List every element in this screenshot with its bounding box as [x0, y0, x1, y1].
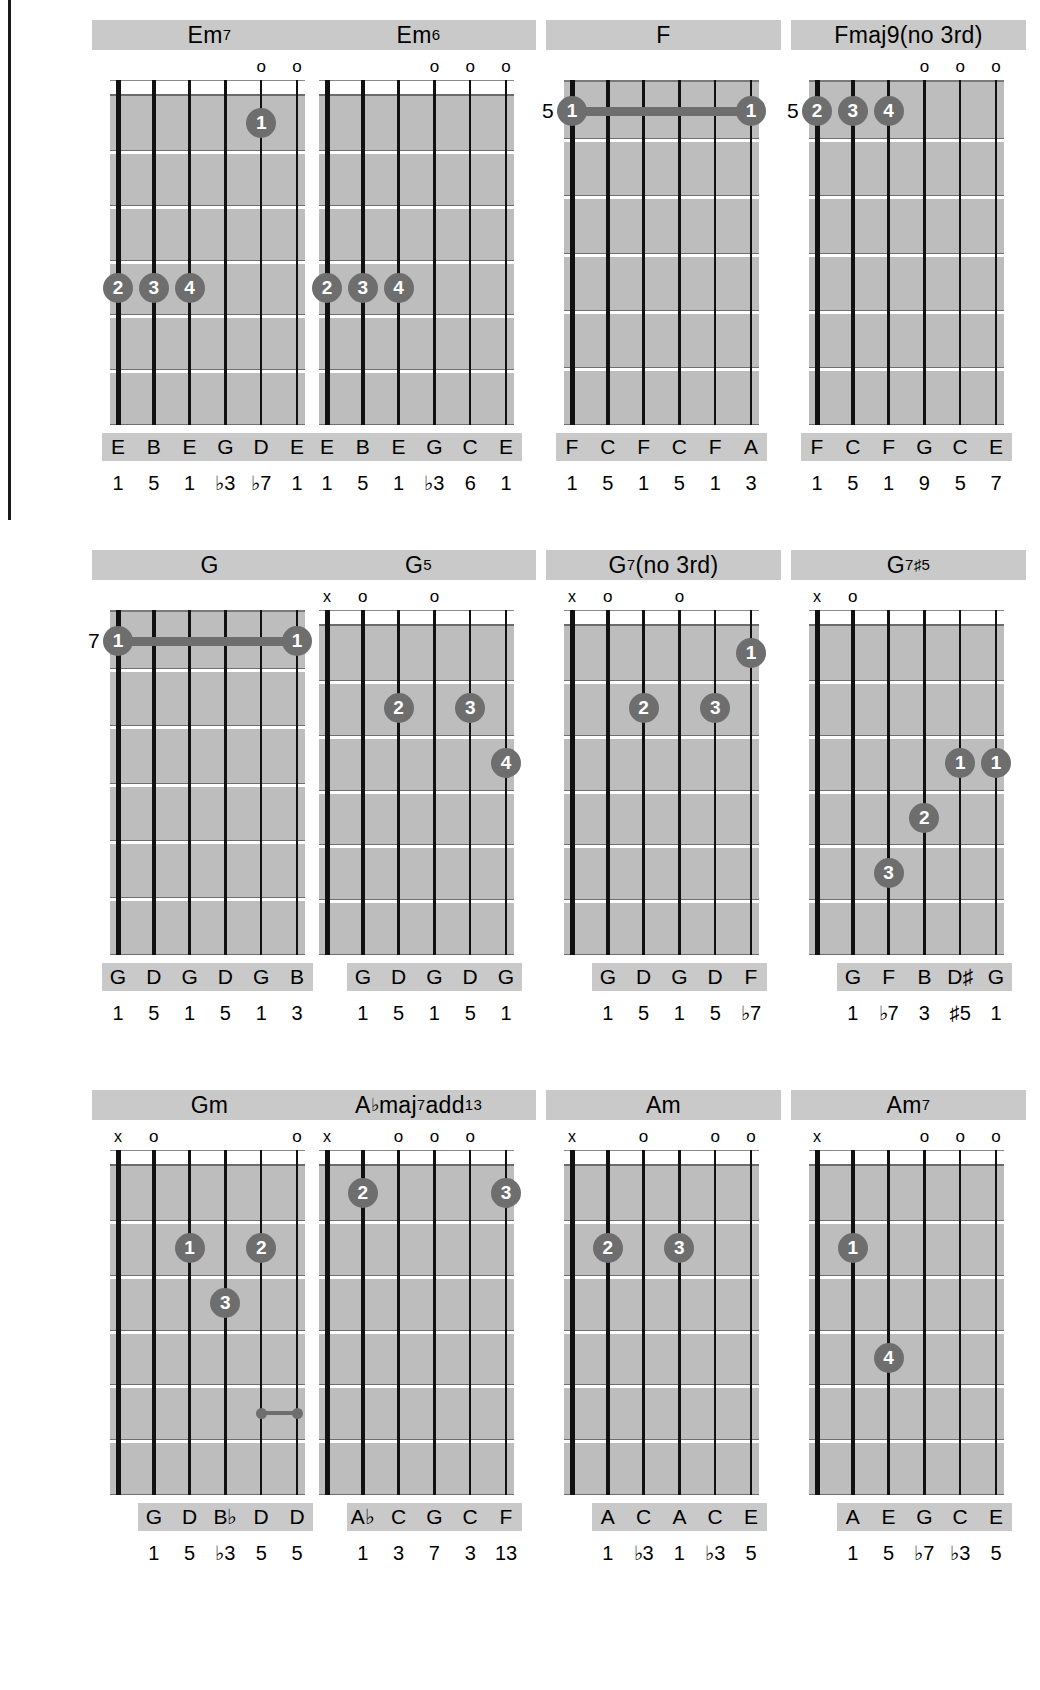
- nut: [809, 610, 1004, 626]
- fret-line: [110, 954, 305, 955]
- open-string-icon: o: [256, 54, 265, 80]
- interval-label: 1: [811, 468, 822, 498]
- interval-label: 13: [495, 1538, 517, 1568]
- fret-line: [110, 669, 305, 672]
- open-string-icon: o: [430, 584, 439, 610]
- note-name: F: [882, 433, 895, 461]
- fretboard-wrapper: 23: [546, 1150, 781, 1495]
- fret-line: [110, 784, 305, 787]
- muted-string-icon: x: [813, 584, 821, 610]
- fretboard: 14: [809, 1150, 1004, 1495]
- chord-diagram: G5xoo234GDGDG15151: [301, 550, 536, 1028]
- finger-dot: 2: [312, 273, 342, 303]
- fret-line: [110, 370, 305, 373]
- interval-label: 5: [990, 1538, 1001, 1568]
- guitar-string: [851, 80, 855, 425]
- interval-label: 1: [184, 998, 195, 1028]
- fretboard-wrapper: 234: [301, 610, 536, 955]
- interval-label: 7: [429, 1538, 440, 1568]
- interval-row: 15♭7♭35: [809, 1538, 1026, 1568]
- interval-label: ♭7: [251, 468, 271, 498]
- interval-label: 5: [955, 468, 966, 498]
- guitar-string: [851, 1150, 855, 1495]
- fret-line: [564, 1494, 759, 1495]
- guitar-string: [505, 610, 506, 955]
- open-string-icon: o: [465, 54, 474, 80]
- open-mute-marker-row: [546, 54, 781, 80]
- fret-line: [110, 206, 305, 209]
- interval-label: 1: [674, 1538, 685, 1568]
- fret-line: [110, 1276, 305, 1279]
- guitar-string: [469, 80, 471, 425]
- note-name: G: [146, 1503, 162, 1531]
- interval-label: 1: [602, 998, 613, 1028]
- interval-label: 1: [184, 468, 195, 498]
- chord-name-label: G7(no 3rd): [546, 550, 781, 580]
- fret-line: [809, 196, 1004, 199]
- interval-label: 1: [357, 998, 368, 1028]
- note-name: D♯: [947, 963, 973, 991]
- nut: [110, 1150, 305, 1166]
- note-name: C: [672, 433, 687, 461]
- chord-name-label: Am7: [791, 1090, 1026, 1120]
- guitar-string: [714, 1150, 716, 1495]
- note-name: E: [744, 1503, 758, 1531]
- guitar-string: [923, 610, 925, 955]
- interval-label: 1: [393, 468, 404, 498]
- guitar-string: [397, 1150, 400, 1495]
- guitar-string: [224, 610, 226, 955]
- guitar-string: [224, 80, 226, 425]
- note-name: E: [320, 433, 334, 461]
- nut: [809, 1150, 1004, 1166]
- fret-line: [564, 1221, 759, 1224]
- guitar-string: [995, 1150, 996, 1495]
- open-string-icon: o: [394, 1124, 403, 1150]
- interval-label: ♭7: [879, 998, 899, 1028]
- fret-line: [319, 900, 514, 903]
- fretboard: 123: [110, 1150, 305, 1495]
- chord-diagram-grid: Em7oo1234EBEGDE151♭3♭71Em6ooo234EBEGCE15…: [0, 0, 1040, 1690]
- fretboard: 11: [564, 80, 759, 425]
- fret-line: [809, 311, 1004, 314]
- fret-line: [809, 254, 1004, 257]
- open-mute-marker-row: ooo: [301, 54, 536, 80]
- finger-dot: 4: [491, 748, 521, 778]
- open-string-icon: o: [746, 1124, 755, 1150]
- guitar-string: [995, 610, 996, 955]
- fret-line: [564, 954, 759, 955]
- fret-line: [809, 900, 1004, 903]
- note-name: D: [463, 963, 478, 991]
- note-name: G: [426, 433, 442, 461]
- note-name: D: [182, 1503, 197, 1531]
- finger-dot: 3: [874, 858, 904, 888]
- guitar-string: [152, 610, 156, 955]
- fret-position-label: 5: [787, 99, 799, 123]
- fret-line: [809, 791, 1004, 794]
- chord-name-label: G: [92, 550, 327, 580]
- fretboard-wrapper: 23: [301, 1150, 536, 1495]
- open-string-icon: o: [358, 584, 367, 610]
- chord-diagram: G7♯5xo1123GFBD♯G1♭73♯51: [791, 550, 1026, 1028]
- guitar-string: [714, 80, 716, 425]
- fret-line: [319, 1494, 514, 1495]
- open-string-icon: o: [955, 1124, 964, 1150]
- note-name-row: GFBD♯G: [837, 963, 1012, 991]
- muted-string-icon: x: [323, 584, 331, 610]
- fretboard: 23: [319, 1150, 514, 1495]
- fret-line: [110, 1385, 305, 1388]
- fret-line: [564, 736, 759, 739]
- guitar-string: [887, 610, 890, 955]
- fretboard-wrapper: 123: [92, 1150, 327, 1495]
- note-name-row: EBEGCE: [311, 433, 522, 461]
- interval-row: 151513: [110, 998, 327, 1028]
- guitar-string: [570, 610, 575, 955]
- partial-barre-dot: [256, 1408, 267, 1419]
- finger-dot: 2: [348, 1178, 378, 1208]
- guitar-string: [361, 80, 365, 425]
- guitar-string: [116, 610, 121, 955]
- fret-line: [319, 151, 514, 154]
- guitar-string: [188, 1150, 191, 1495]
- chord-diagram: G7(no 3rd)xoo123GDGDF1515♭7: [546, 550, 781, 1028]
- fret-line: [809, 80, 1004, 82]
- guitar-string: [325, 80, 330, 425]
